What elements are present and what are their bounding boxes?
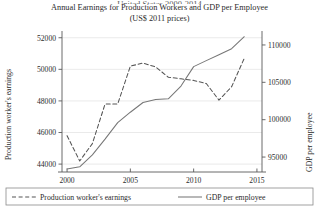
left-tick-label: 44000	[37, 160, 56, 169]
series-group	[67, 37, 244, 169]
axis-frame-group	[58, 31, 266, 172]
left-axis-title: Production worker's earnings	[4, 69, 13, 160]
right-tick-label: 110000	[268, 41, 291, 50]
x-tick-label: 2015	[249, 176, 264, 185]
gridlines-group	[62, 38, 262, 164]
right-axis-title: GDP per employee	[305, 112, 314, 172]
x-tick-label: 2000	[59, 176, 74, 185]
chart-figure: United States 2000-2014 Annual Earnings …	[0, 0, 319, 208]
right-tick-label: 105000	[268, 78, 291, 87]
right-tick-label: 100000	[268, 115, 291, 124]
chart-title-main: Annual Earnings for Production Workers a…	[0, 3, 319, 14]
legend-label-2: GDP per employee	[206, 193, 266, 202]
legend-label-1: Production worker's earnings	[40, 193, 131, 202]
left-tick-label: 52000	[37, 34, 56, 43]
left-tick-label: 48000	[37, 97, 56, 106]
x-tick-label: 2010	[186, 176, 201, 185]
chart-plot-svg: 2000200520102015 44000460004800050000520…	[0, 0, 319, 208]
chart-title-block: Annual Earnings for Production Workers a…	[0, 3, 319, 24]
right-tick-label: 95000	[268, 153, 287, 162]
x-tick-group: 2000200520102015	[59, 169, 264, 186]
right-tick-group: 95000100000105000110000	[262, 41, 291, 162]
chart-title-sub: (US$ 2011 prices)	[0, 14, 319, 25]
series-line-1	[67, 58, 244, 161]
left-tick-group: 4400046000480005000052000	[37, 34, 62, 169]
left-tick-label: 50000	[37, 65, 56, 74]
series-line-2	[67, 37, 244, 169]
x-tick-label: 2005	[123, 176, 138, 185]
legend: Production worker's earningsGDP per empl…	[6, 188, 313, 205]
left-tick-label: 46000	[37, 128, 56, 137]
